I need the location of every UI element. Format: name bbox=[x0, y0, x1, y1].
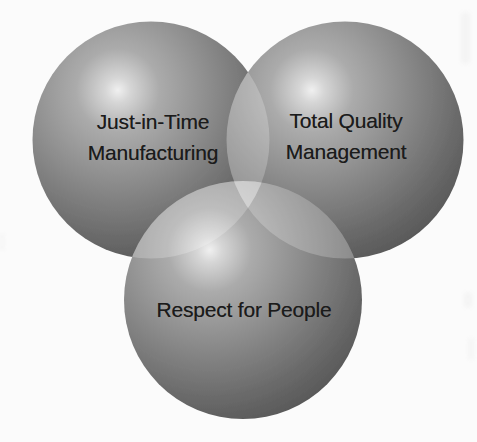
scan-bleed-artifact bbox=[464, 292, 472, 308]
label-line: Management bbox=[286, 136, 407, 167]
label-line: Manufacturing bbox=[88, 137, 218, 168]
label-line: Respect for People bbox=[156, 294, 331, 325]
label-just-in-time-manufacturing: Just-in-Time Manufacturing bbox=[88, 106, 218, 168]
venn-spheres-graphic bbox=[0, 0, 477, 442]
scan-bleed-artifact bbox=[461, 12, 470, 64]
scan-bleed-artifact bbox=[0, 233, 4, 251]
label-line: Total Quality bbox=[286, 105, 407, 136]
label-total-quality-management: Total Quality Management bbox=[286, 105, 407, 167]
label-line: Just-in-Time bbox=[88, 106, 218, 137]
label-respect-for-people: Respect for People bbox=[156, 294, 331, 325]
venn-diagram: Just-in-Time Manufacturing Total Quality… bbox=[0, 0, 477, 442]
scan-bleed-artifact bbox=[468, 338, 474, 360]
